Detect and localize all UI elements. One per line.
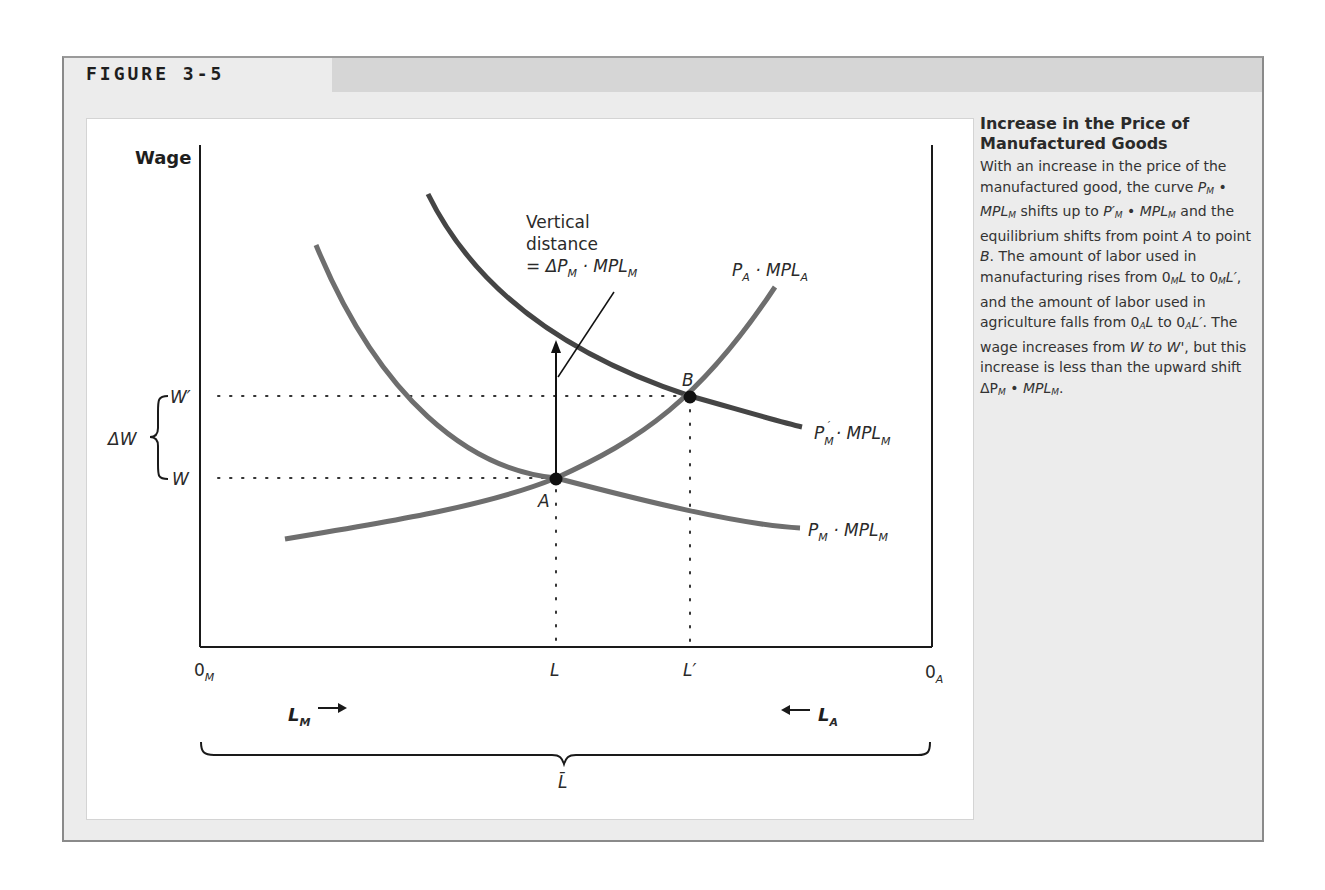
point-b-marker	[684, 391, 697, 404]
total-labor-label: L̄	[558, 771, 567, 792]
pm-mplm-curve	[316, 245, 800, 528]
w-prime-label: W′	[170, 387, 191, 407]
pa-mpla-curve	[285, 287, 775, 539]
l-prime-label: L′	[683, 660, 696, 680]
annotation-line-3: = ΔPM · MPLM	[526, 256, 638, 280]
la-label: LA	[818, 704, 838, 729]
w-label: W	[172, 469, 190, 489]
origin-a-label: 0A	[925, 662, 943, 686]
pm-prime-mplm-label: PM′ · MPLM	[814, 419, 891, 448]
lm-arrow-head-icon	[338, 703, 347, 713]
point-b-label: B	[682, 370, 694, 390]
annotation-line-1: Vertical	[526, 212, 590, 232]
arrow-head-icon	[551, 340, 561, 353]
origin-m-label: 0M	[194, 660, 215, 684]
delta-w-brace	[150, 396, 168, 479]
annotation-line-2: distance	[526, 234, 598, 254]
total-labor-brace	[201, 742, 930, 764]
lm-label: LM	[288, 704, 310, 729]
pm-prime-mplm-curve	[428, 194, 802, 427]
pa-mpla-label: PA · MPLA	[732, 260, 808, 284]
y-axis-label: Wage	[135, 147, 191, 168]
point-a-label: A	[537, 491, 550, 511]
pm-mplm-label: PM · MPLM	[808, 520, 888, 544]
la-arrow-head-icon	[781, 705, 790, 715]
point-a-marker	[550, 473, 563, 486]
delta-w-label: ΔW	[106, 429, 138, 449]
diagram-svg: Wage A B Vertical distance = ΔPM · MPLM …	[0, 0, 1325, 890]
l-label: L	[550, 660, 559, 680]
